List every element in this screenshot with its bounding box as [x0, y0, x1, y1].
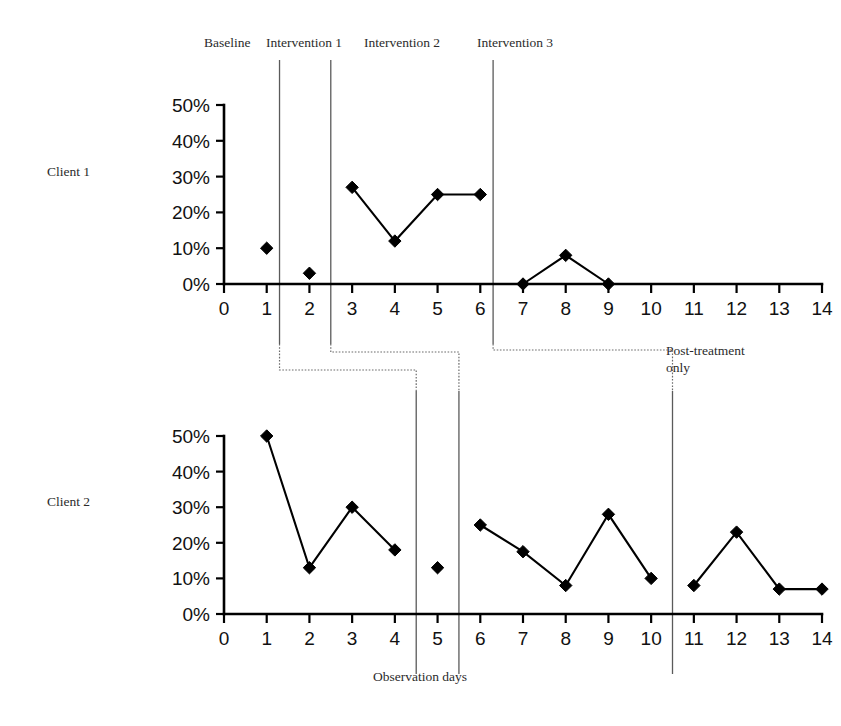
client-2-series-segment-4: [694, 532, 822, 589]
client-2-series-segment-1: [267, 436, 395, 568]
client-1-x-tick-label: 4: [390, 298, 401, 319]
client-1-x-tick-label: 7: [518, 298, 529, 319]
client-1-x-tick-label: 10: [641, 298, 662, 319]
client-2-series-segment-3: [480, 514, 651, 585]
client-2-x-tick-label: 7: [518, 628, 529, 649]
client-2-x-tick-label: 13: [769, 628, 790, 649]
client-1-data-point: [261, 242, 273, 254]
client-1-y-tick-label: 20%: [172, 202, 210, 223]
client-2-y-tick-label: 20%: [172, 533, 210, 554]
client-1-data-point: [602, 278, 614, 290]
client-2-x-tick-label: 5: [432, 628, 443, 649]
client-2-x-tick-label: 14: [811, 628, 833, 649]
client-2-x-tick-label: 2: [304, 628, 315, 649]
client-1-x-tick-label: 0: [219, 298, 230, 319]
client-1-x-tick-label: 8: [560, 298, 571, 319]
client-1-chart: 0%10%20%30%40%50%01234567891011121314: [172, 60, 833, 344]
client-1-x-tick-label: 13: [769, 298, 790, 319]
client-1-data-point: [517, 278, 529, 290]
multiple-baseline-chart-figure: Baseline Intervention 1 Intervention 2 I…: [0, 0, 841, 726]
phase-connector-lines: [280, 344, 673, 391]
client-2-data-point: [602, 508, 614, 520]
client-2-y-tick-label: 10%: [172, 568, 210, 589]
client-2-row-label: Client 2: [47, 494, 90, 509]
client-1-x-tick-label: 12: [726, 298, 747, 319]
client-2-x-tick-label: 8: [560, 628, 571, 649]
phase-label-intervention-3: Intervention 3: [477, 35, 553, 50]
client-1-y-tick-label: 50%: [172, 95, 210, 116]
client-1-x-tick-label: 11: [684, 298, 704, 319]
client-1-data-point: [474, 188, 486, 200]
phase-label-intervention-2: Intervention 2: [364, 35, 440, 50]
client-2-y-tick-label: 50%: [172, 426, 210, 447]
client-2-x-tick-label: 12: [726, 628, 747, 649]
phase-connector-2: [331, 344, 459, 391]
client-2-data-point: [474, 519, 486, 531]
phase-label-baseline: Baseline: [204, 35, 251, 50]
client-1-x-tick-label: 6: [475, 298, 486, 319]
client-2-x-tick-label: 10: [641, 628, 662, 649]
client-2-x-tick-label: 4: [390, 628, 401, 649]
client-2-data-point: [261, 430, 273, 442]
client-1-data-point: [303, 267, 315, 279]
client-1-x-tick-label: 1: [261, 298, 272, 319]
post-treatment-note-line-1: Post-treatment: [666, 343, 745, 358]
phase-connector-3: [493, 344, 672, 391]
client-2-x-tick-label: 9: [603, 628, 614, 649]
client-2-chart: 0%10%20%30%40%50%01234567891011121314: [172, 391, 833, 674]
client-2-data-point: [645, 572, 657, 584]
client-1-y-tick-label: 0%: [183, 274, 211, 295]
post-treatment-note-line-2: only: [666, 360, 690, 375]
client-2-x-tick-label: 3: [347, 628, 358, 649]
phase-label-intervention-1: Intervention 1: [266, 35, 342, 50]
client-2-x-tick-label: 1: [261, 628, 272, 649]
client-2-x-tick-label: 6: [475, 628, 486, 649]
client-2-data-point: [816, 583, 828, 595]
client-1-x-tick-label: 9: [603, 298, 614, 319]
client-1-y-tick-label: 40%: [172, 131, 210, 152]
client-1-x-tick-label: 14: [811, 298, 833, 319]
client-1-x-tick-label: 3: [347, 298, 358, 319]
client-2-x-tick-label: 0: [219, 628, 230, 649]
x-axis-title: Observation days: [373, 669, 467, 684]
client-1-row-label: Client 1: [47, 164, 90, 179]
client-1-x-tick-label: 5: [432, 298, 443, 319]
client-1-data-point: [560, 249, 572, 261]
client-2-y-tick-label: 30%: [172, 497, 210, 518]
client-1-y-tick-label: 10%: [172, 238, 210, 259]
phase-connector-1: [280, 344, 417, 391]
client-2-x-tick-label: 11: [684, 628, 704, 649]
client-1-series-segment-3: [352, 187, 480, 241]
client-2-y-tick-label: 0%: [183, 604, 211, 625]
client-2-data-point: [431, 562, 443, 574]
client-2-y-tick-label: 40%: [172, 462, 210, 483]
client-1-x-tick-label: 2: [304, 298, 315, 319]
client-1-y-tick-label: 30%: [172, 167, 210, 188]
